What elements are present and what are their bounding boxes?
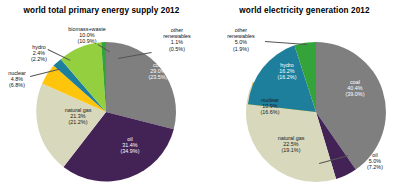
pie-label-natural-gas-left: natural gas 21.3% (21.2%) [49, 107, 107, 126]
pie-label-hydro-left: hydro 2.4% (2.2%) [22, 44, 56, 63]
pie-label-nuclear-right: nuclear 10.9% (16.6%) [248, 97, 292, 116]
pie-label-natural-gas-right: natural gas 22.5% (19.1%) [262, 135, 320, 154]
pie-label-oil-right: oil 5.0% (7.2%) [355, 152, 395, 171]
two-pie-chart-figure: world total primary energy supply 2012 [0, 0, 406, 191]
pie-label-other-renewables-left: other renewables 1.1% (0.5%) [152, 27, 202, 52]
pie-label-coal-right: coal 40.4% (39.0%) [333, 79, 377, 98]
pie-label-biomass-waste-left: biomass+waste 10.0% (10.9%) [50, 26, 124, 45]
chart-title-right: world electricity generation 2012 [203, 6, 406, 16]
chart-title-left: world total primary energy supply 2012 [0, 6, 203, 16]
pie-label-coal-left: coal 29.0% (23.5%) [136, 62, 180, 81]
pie-label-other-renewables-right: other renewables 5.0% (1.9%) [215, 27, 267, 52]
pie-label-oil-left: oil 31.4% (34.9%) [108, 136, 152, 155]
chart-panel-left: world total primary energy supply 2012 [0, 0, 203, 191]
pie-label-hydro-right: hydro 16.2% (16.2%) [265, 62, 309, 81]
pie-label-nuclear-left: nuclear 4.8% (6.8%) [0, 70, 34, 89]
chart-panel-right: world electricity generation 2012 [203, 0, 406, 191]
